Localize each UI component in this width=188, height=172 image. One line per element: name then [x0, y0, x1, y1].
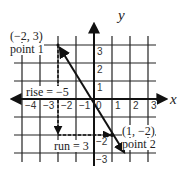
point-1-name: point 1	[10, 43, 44, 55]
x-tick: 0	[96, 101, 102, 111]
y-tick: 1	[97, 83, 103, 93]
y-tick: 3	[97, 47, 103, 57]
x-tick: 1	[115, 101, 121, 111]
point-2-coord: (1, −2)	[122, 125, 155, 137]
rise-label: rise = −5	[26, 86, 69, 98]
point-1-marker	[57, 44, 60, 47]
y-tick: −3	[96, 155, 107, 165]
point-1-coord: (−2, 3)	[10, 30, 43, 42]
x-tick: −2	[61, 101, 72, 111]
x-tick: −3	[43, 101, 54, 111]
x-axis-label: x	[170, 92, 177, 107]
x-tick: 2	[133, 101, 139, 111]
y-axis-label: y	[118, 8, 125, 23]
x-tick: 3	[151, 101, 157, 111]
point-2-marker	[110, 133, 114, 137]
y-tick: 2	[97, 65, 103, 75]
x-tick: −1	[79, 101, 90, 111]
point-2-name: point 2	[122, 138, 156, 150]
x-tick: −4	[25, 101, 36, 111]
y-tick: −2	[96, 137, 107, 147]
run-label: run = 3	[54, 140, 89, 152]
